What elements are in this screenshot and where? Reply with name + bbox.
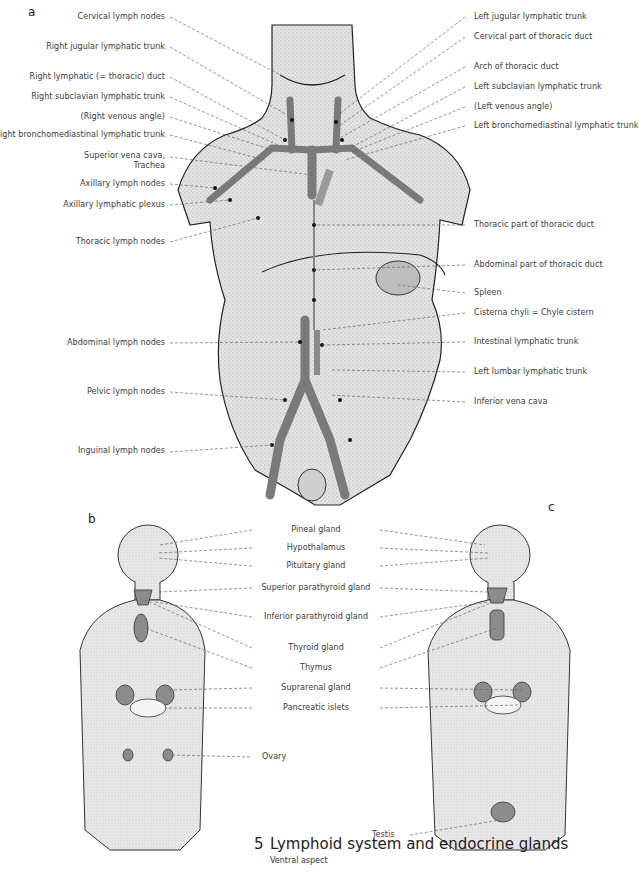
label-arch-thoracic-duct: Arch of thoracic duct xyxy=(474,62,558,72)
label-inferior-vena-cava: Inferior vena cava xyxy=(474,397,547,407)
male-figure-c xyxy=(428,525,570,850)
label-hypothalamus: Hypothalamus xyxy=(287,543,346,553)
label-cisterna-chyli: Cisterna chyli = Chyle cistern xyxy=(474,308,594,318)
label-thoracic-part-thoracic-duct: Thoracic part of thoracic duct xyxy=(474,220,594,230)
label-left-jugular-lymphatic-trunk: Left jugular lymphatic trunk xyxy=(474,12,587,22)
label-pancreatic-islets: Pancreatic islets xyxy=(283,703,349,713)
label-pineal-gland: Pineal gland xyxy=(291,525,340,535)
label-axillary-lymph-nodes: Axillary lymph nodes xyxy=(80,179,165,189)
label-left-subclavian-lymphatic-trunk: Left subclavian lymphatic trunk xyxy=(474,82,602,92)
figure-number: 5 xyxy=(254,835,264,853)
figure-title: Lymphoid system and endocrine glands xyxy=(270,835,568,853)
panel-letter-b: b xyxy=(88,512,96,526)
label-superior-vena-cava: Superior vena cava, xyxy=(84,151,165,161)
label-abdominal-lymph-nodes: Abdominal lymph nodes xyxy=(67,338,165,348)
panel-letter-a: a xyxy=(28,5,35,19)
label-right-venous-angle: (Right venous angle) xyxy=(81,112,165,122)
label-right-subclavian-lymphatic-trunk: Right subclavian lymphatic trunk xyxy=(31,92,165,102)
label-superior-parathyroid-gland: Superior parathyroid gland xyxy=(261,583,370,593)
label-axillary-lymphatic-plexus: Axillary lymphatic plexus xyxy=(63,200,165,210)
label-left-venous-angle: (Left venous angle) xyxy=(474,102,552,112)
torso-figure-a xyxy=(178,25,470,505)
label-inferior-parathyroid-gland: Inferior parathyroid gland xyxy=(264,612,368,622)
label-trachea: Trachea xyxy=(133,161,165,171)
label-ovary: Ovary xyxy=(262,752,286,762)
label-pituitary-gland: Pituitary gland xyxy=(286,561,345,571)
label-right-jugular-lymphatic-trunk: Right jugular lymphatic trunk xyxy=(46,42,165,52)
panel-letter-c: c xyxy=(548,500,555,514)
label-pelvic-lymph-nodes: Pelvic lymph nodes xyxy=(87,387,165,397)
label-abdominal-part-thoracic-duct: Abdominal part of thoracic duct xyxy=(474,260,603,270)
label-suprarenal-gland: Suprarenal gland xyxy=(281,683,350,693)
label-left-lumbar-lymphatic-trunk: Left lumbar lymphatic trunk xyxy=(474,367,587,377)
label-cervical-part-thoracic-duct: Cervical part of thoracic duct xyxy=(474,32,592,42)
label-inguinal-lymph-nodes: Inguinal lymph nodes xyxy=(78,446,165,456)
label-thymus: Thymus xyxy=(300,663,332,673)
label-thyroid-gland: Thyroid gland xyxy=(288,643,344,653)
label-right-bronchomediastinal-trunk: Right bronchomediastinal lymphatic trunk xyxy=(0,130,165,140)
label-intestinal-lymphatic-trunk: Intestinal lymphatic trunk xyxy=(474,337,578,347)
label-left-bronchomediastinal-trunk: Left bronchomediastinal lymphatic trunk xyxy=(474,121,639,131)
figure-subtitle: Ventral aspect xyxy=(270,856,328,865)
label-thoracic-lymph-nodes: Thoracic lymph nodes xyxy=(76,237,165,247)
label-right-lymphatic-duct: Right lymphatic (= thoracic) duct xyxy=(30,72,165,82)
label-cervical-lymph-nodes: Cervical lymph nodes xyxy=(78,12,165,22)
female-figure-b xyxy=(80,525,205,850)
label-spleen: Spleen xyxy=(474,288,502,298)
